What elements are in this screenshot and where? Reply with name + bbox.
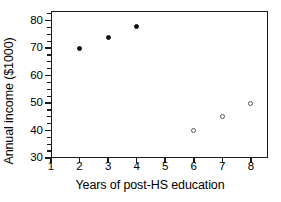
data-point [77, 46, 82, 51]
y-minor-tick [47, 123, 51, 124]
x-tick-label-2: 2 [70, 161, 90, 173]
y-minor-tick [47, 89, 51, 90]
y-minor-tick [47, 13, 51, 14]
x-tick-label-8: 8 [241, 161, 261, 173]
y-minor-tick [47, 150, 51, 151]
y-tick-label-wrap: 60 [18, 70, 43, 82]
scatter-chart: Annual income ($1000) Years of post-HS e… [0, 0, 281, 202]
y-tick-label-wrap: 50 [18, 97, 43, 109]
y-minor-tick [47, 116, 51, 117]
data-point [248, 101, 253, 106]
y-minor-tick [47, 54, 51, 55]
y-tick-label-30: 30 [19, 152, 43, 164]
y-axis-title: Annual income ($1000) [0, 0, 18, 202]
y-minor-tick [47, 34, 51, 35]
x-tick-label-5: 5 [155, 161, 175, 173]
y-tick-label-70: 70 [19, 42, 43, 54]
x-tick-label-7: 7 [212, 161, 232, 173]
y-minor-tick [47, 144, 51, 145]
y-tick-80 [45, 20, 51, 22]
plot-area [51, 11, 268, 158]
y-minor-tick [47, 96, 51, 97]
y-tick-label-50: 50 [19, 97, 43, 109]
x-tick-label-3: 3 [98, 161, 118, 173]
y-minor-tick [47, 27, 51, 28]
y-minor-tick [47, 41, 51, 42]
y-tick-label-40: 40 [19, 125, 43, 137]
y-minor-tick [47, 137, 51, 138]
y-minor-tick [47, 82, 51, 83]
y-minor-tick [47, 109, 51, 110]
x-tick-label-4: 4 [127, 161, 147, 173]
y-tick-70 [45, 47, 51, 49]
y-minor-tick [47, 68, 51, 69]
data-point [106, 35, 111, 40]
y-minor-tick [47, 61, 51, 62]
x-tick-label-1: 1 [41, 161, 61, 173]
y-tick-label-wrap: 30 [18, 152, 43, 164]
x-axis-title: Years of post-HS education [30, 178, 270, 192]
y-tick-label-wrap: 80 [18, 15, 43, 27]
y-tick-60 [45, 75, 51, 77]
x-tick-label-6: 6 [184, 161, 204, 173]
y-tick-label-wrap: 70 [18, 42, 43, 54]
data-point [134, 24, 139, 29]
y-tick-label-60: 60 [19, 70, 43, 82]
y-tick-label-80: 80 [19, 15, 43, 27]
y-tick-label-wrap: 40 [18, 125, 43, 137]
y-tick-40 [45, 130, 51, 132]
y-tick-50 [45, 102, 51, 104]
